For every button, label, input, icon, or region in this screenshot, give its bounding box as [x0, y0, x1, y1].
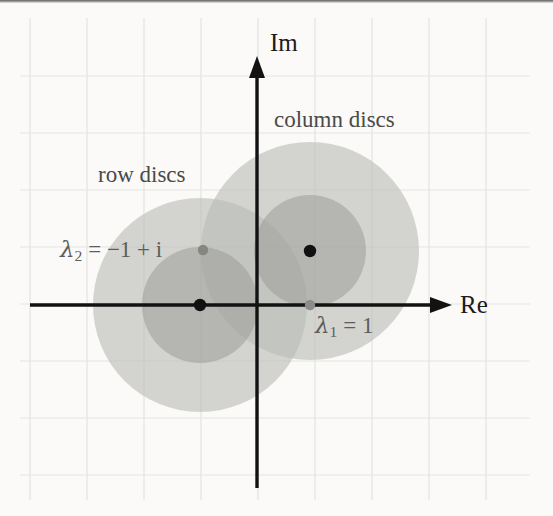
eigenvalue-2-subscript: 2: [75, 247, 83, 264]
eigenvalue-2-equals: =: [88, 237, 101, 262]
imaginary-axis-label: Im: [270, 30, 298, 55]
eigenvalue-1-equals: =: [343, 313, 356, 338]
eigenvalue-1-label: λ1 = 1: [315, 314, 373, 340]
eigenvalue-2-value: −1 + i: [107, 237, 162, 262]
imaginary-axis-arrowhead: [249, 56, 265, 78]
real-axis-arrowhead: [430, 297, 452, 313]
disc-center-marker-2: [304, 245, 316, 257]
column-discs-label: column discs: [274, 108, 395, 131]
eigenvalue-2-label: λ2 = −1 + i: [60, 238, 162, 264]
row-discs-label: row discs: [98, 163, 186, 186]
gershgorin-disc-figure: Im Re column discs row discs λ2 = −1 + i…: [0, 0, 553, 516]
eigenvalue-1-value: 1: [362, 313, 374, 338]
eigenvalue-marker-lambda1: [305, 300, 315, 310]
eigenvalue-1-lambda: λ: [315, 312, 330, 338]
eigenvalue-marker-lambda2: [198, 245, 208, 255]
eigenvalue-1-subscript: 1: [330, 323, 338, 340]
disc-center-marker-1: [194, 299, 206, 311]
eigenvalue-2-lambda: λ: [60, 236, 75, 262]
real-axis-label: Re: [460, 292, 488, 317]
